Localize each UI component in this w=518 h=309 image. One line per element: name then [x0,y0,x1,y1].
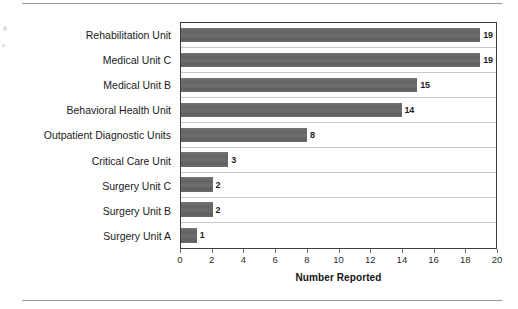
x-tick-mark [402,249,403,253]
bar-row: 14 [181,98,496,123]
bar[interactable]: 2 [181,177,213,192]
bar-value-label: 8 [310,130,315,140]
x-tick-mark [434,249,435,253]
bar[interactable]: 14 [181,103,402,118]
x-tick-label: 6 [272,254,277,265]
x-tick-label: 0 [177,254,182,265]
bar[interactable]: 15 [181,78,417,93]
bar-value-label: 15 [420,80,430,90]
bar-row: 1 [181,223,496,248]
x-tick-label: 20 [492,254,503,265]
x-tick-label: 14 [397,254,408,265]
x-tick-label: 2 [209,254,214,265]
bar[interactable]: 3 [181,152,228,167]
bar-value-label: 14 [405,105,415,115]
x-tick-mark [275,249,276,253]
bar-row: 8 [181,123,496,148]
category-label: Surgery Unit C [0,173,176,198]
x-tick-mark [339,249,340,253]
x-tick-label: 4 [241,254,246,265]
bar-value-label: 19 [483,30,493,40]
bar-value-label: 1 [200,230,205,240]
x-tick-label: 8 [304,254,309,265]
bar[interactable]: 2 [181,202,213,217]
bar-value-label: 2 [216,180,221,190]
x-tick-mark [465,249,466,253]
bar-row: 2 [181,173,496,198]
bar-row: 3 [181,148,496,173]
x-axis-title: Number Reported [180,272,497,283]
category-label: Surgery Unit A [0,224,176,249]
x-tick-label: 18 [460,254,471,265]
bar-row: 19 [181,23,496,48]
x-tick-mark [307,249,308,253]
x-tick-mark [243,249,244,253]
category-label: Critical Care Unit [0,148,176,173]
bar-row: 15 [181,73,496,98]
bar-row: 2 [181,198,496,223]
bar-rows: 1919151483221 [181,23,496,248]
x-tick-label: 12 [365,254,376,265]
category-axis-labels: Rehabilitation UnitMedical Unit CMedical… [0,22,176,249]
category-label: Rehabilitation Unit [0,22,176,47]
bar[interactable]: 19 [181,28,480,43]
x-tick-mark [180,249,181,253]
x-tick-label: 10 [333,254,344,265]
category-label: Outpatient Diagnostic Units [0,123,176,148]
bar[interactable]: 19 [181,53,480,68]
bar[interactable]: 1 [181,228,197,243]
bar-value-label: 3 [231,155,236,165]
bar-value-label: 19 [483,55,493,65]
bar-value-label: 2 [216,205,221,215]
x-tick-label: 16 [428,254,439,265]
category-label: Behavioral Health Unit [0,98,176,123]
x-tick-mark [497,249,498,253]
horizontal-bar-chart: Rehabilitation UnitMedical Unit CMedical… [0,0,518,309]
category-label: Surgery Unit B [0,199,176,224]
x-tick-mark [212,249,213,253]
bar-row: 19 [181,48,496,73]
category-label: Medical Unit B [0,72,176,97]
x-tick-mark [370,249,371,253]
plot-area: 1919151483221 [180,22,497,249]
bar[interactable]: 8 [181,128,307,143]
category-label: Medical Unit C [0,47,176,72]
